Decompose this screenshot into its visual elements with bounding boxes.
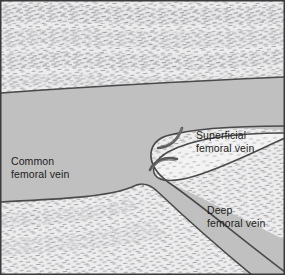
superficial-femoral-vein-label-line1: Superficial: [196, 129, 246, 141]
deep-femoral-vein-label-line1: Deep: [207, 204, 233, 216]
deep-femoral-vein-label-line2: femoral vein: [207, 217, 265, 229]
common-femoral-vein-label-line1: Common: [11, 155, 54, 167]
lumen-fleck: [142, 185, 144, 187]
label-superficial-femoral-vein: Superficial femoral vein: [196, 129, 254, 154]
common-femoral-vein-label-line2: femoral vein: [11, 168, 69, 180]
femoral-vein-diagram: Superficial femoral vein Common femoral …: [0, 0, 285, 275]
anatomy-illustration: Superficial femoral vein Common femoral …: [0, 0, 285, 275]
superficial-femoral-vein-label-line2: femoral vein: [196, 142, 254, 154]
